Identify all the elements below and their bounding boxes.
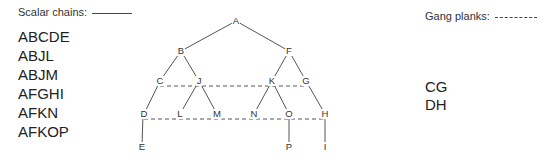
node-l: L (176, 109, 183, 119)
node-o: O (284, 109, 293, 119)
node-i: I (323, 142, 328, 152)
node-a: A (232, 16, 240, 26)
node-c: C (156, 76, 165, 86)
node-b: B (177, 46, 185, 56)
node-n: N (250, 109, 259, 119)
node-p: P (285, 142, 293, 152)
node-j: J (196, 76, 203, 86)
node-g: G (301, 76, 310, 86)
node-d: D (140, 109, 149, 119)
node-h: H (321, 109, 330, 119)
node-e: E (138, 142, 146, 152)
node-m: M (212, 109, 222, 119)
node-f: F (285, 46, 293, 56)
node-k: K (268, 76, 276, 86)
